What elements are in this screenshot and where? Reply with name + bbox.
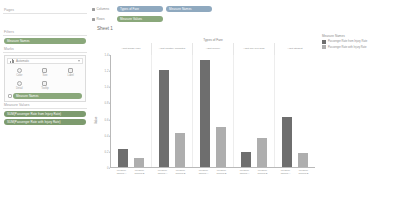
legend-swatch-1 [322, 40, 326, 44]
bar[interactable] [298, 153, 308, 167]
columns-icon [92, 8, 95, 11]
text-field-icon [8, 94, 12, 98]
chart-panel [274, 55, 315, 167]
x-label-group: Measure Names AMeasure Names B [274, 169, 315, 175]
mark-button-tooltip-label: Tooltip [41, 87, 49, 90]
bar[interactable] [118, 149, 128, 167]
mark-button-color-label: Color [16, 74, 22, 77]
bar[interactable] [216, 127, 226, 167]
x-axis-label[interactable]: Measure Names B [133, 169, 146, 175]
marks-section: Marks Automatic Color Size [0, 47, 90, 102]
chart-panel [192, 55, 233, 167]
shelf-area: Columns Types of Fare Measure Names Rows… [92, 5, 408, 25]
x-label-group: Measure Names AMeasure Names B [110, 169, 151, 175]
tooltip-icon [42, 81, 47, 86]
bar[interactable] [175, 133, 185, 167]
column-header[interactable]: Adult Monthly Unlimited [151, 43, 192, 55]
x-axis-label[interactable]: Measure Names A [238, 169, 251, 175]
x-axis-label[interactable]: Measure Names B [256, 169, 269, 175]
bar[interactable] [134, 158, 144, 167]
filter-pill-measure-names[interactable]: Measure Names [4, 38, 86, 44]
mark-property-grid: Color Size Label Detail [7, 67, 83, 91]
filters-section: Filters Measure Names [0, 30, 90, 44]
rows-shelf-dropzone[interactable]: Measure Values [117, 16, 408, 22]
chart-panel [111, 55, 151, 167]
x-axis-label[interactable]: Measure Names B [215, 169, 228, 175]
measure-values-divider [3, 108, 87, 109]
mark-button-label[interactable]: Label [58, 67, 83, 78]
pages-section: Pages [0, 8, 90, 16]
marks-divider [3, 52, 87, 53]
bar[interactable] [241, 152, 251, 167]
legend-label-1: Passenger Rate from Injury Rate [328, 40, 367, 43]
measure-value-pill-1[interactable]: SUM(Passenger Rate from Injury Rate) [4, 111, 86, 117]
measure-values-list: SUM(Passenger Rate from Injury Rate) SUM… [0, 111, 90, 125]
column-header[interactable]: Adult Weekly [192, 43, 233, 55]
x-axis-label[interactable]: Measure Names A [197, 169, 210, 175]
color-icon [17, 68, 22, 73]
rows-shelf[interactable]: Rows Measure Values [92, 15, 408, 23]
legend: Measure Names Passenger Rate from Injury… [322, 34, 406, 51]
x-label-group: Measure Names AMeasure Names B [192, 169, 233, 175]
sheet-title[interactable]: Sheet 1 [97, 26, 113, 31]
legend-entry-2[interactable]: Passenger Rate with Injury Rate [322, 45, 406, 49]
rows-pill-measure-values[interactable]: Measure Values [117, 16, 163, 22]
x-axis-label[interactable]: Measure Names A [156, 169, 169, 175]
label-icon [68, 68, 73, 73]
x-axis-label[interactable]: Measure Names A [279, 169, 292, 175]
pages-label: Pages [0, 8, 90, 12]
legend-swatch-2 [322, 45, 326, 49]
marks-field-row: Measure Names [8, 93, 82, 99]
measure-values-label: Measure Values [0, 103, 90, 107]
bar[interactable] [257, 138, 267, 167]
mark-grid-spacer [58, 80, 83, 91]
legend-label-2: Passenger Rate with Injury Rate [328, 46, 367, 49]
columns-shelf-dropzone[interactable]: Types of Fare Measure Names [117, 6, 408, 12]
bar[interactable] [200, 60, 210, 167]
chart-panel [151, 55, 192, 167]
x-axis-label[interactable]: Measure Names B [174, 169, 187, 175]
mark-button-detail[interactable]: Detail [7, 80, 32, 91]
y-axis-ticks: 1.41.21.00.80.60.40.20 [97, 55, 110, 168]
filters-divider [3, 35, 87, 36]
rows-shelf-name: Rows [92, 17, 114, 21]
filters-label: Filters [0, 30, 90, 34]
bar-chart-icon [10, 59, 14, 63]
marks-label: Marks [0, 47, 90, 51]
chevron-down-icon[interactable] [78, 60, 80, 62]
mark-button-detail-label: Detail [16, 87, 23, 90]
detail-icon [17, 81, 22, 86]
mark-button-size[interactable]: Size [33, 67, 58, 78]
mark-type-selector[interactable]: Automatic [7, 58, 83, 64]
bar[interactable] [159, 70, 169, 167]
x-axis-label[interactable]: Measure Names B [297, 169, 310, 175]
marks-pill-measure-names[interactable]: Measure Names [13, 93, 82, 99]
column-band-title: Types of Fare [111, 38, 315, 42]
left-panel: Pages Filters Measure Names Marks Automa… [0, 0, 90, 202]
columns-pill-types-of-fare[interactable]: Types of Fare [117, 6, 163, 12]
legend-entry-1[interactable]: Passenger Rate from Injury Rate [322, 40, 406, 44]
chart-panel [233, 55, 274, 167]
bar[interactable] [282, 117, 292, 167]
measure-value-pill-2[interactable]: SUM(Passenger Rate with Injury Rate) [4, 119, 86, 125]
mark-button-label-label: Label [67, 74, 73, 77]
mark-type-value: Automatic [16, 59, 76, 63]
mark-button-tooltip[interactable]: Tooltip [33, 80, 58, 91]
column-header[interactable]: Adult Single Fare [111, 43, 151, 55]
column-header[interactable]: Adult Pay-Per-Ride [233, 43, 274, 55]
columns-shelf-label: Columns [97, 7, 110, 11]
columns-pill-measure-names[interactable]: Measure Names [166, 6, 212, 12]
x-axis-label[interactable]: Measure Names A [115, 169, 128, 175]
columns-shelf[interactable]: Columns Types of Fare Measure Names [92, 5, 408, 13]
x-label-group: Measure Names AMeasure Names B [233, 169, 274, 175]
legend-title: Measure Names [322, 34, 406, 38]
visualization: Types of Fare Adult Single FareAdult Mon… [97, 38, 315, 190]
measure-values-section: Measure Values SUM(Passenger Rate from I… [0, 103, 90, 125]
tableau-workbook: Pages Filters Measure Names Marks Automa… [0, 0, 410, 202]
mark-button-color[interactable]: Color [7, 67, 32, 78]
plot-area [110, 55, 315, 168]
size-icon [42, 68, 47, 73]
column-header[interactable]: Adult Student [274, 43, 315, 55]
pages-divider [3, 13, 87, 14]
rows-icon [92, 18, 95, 21]
